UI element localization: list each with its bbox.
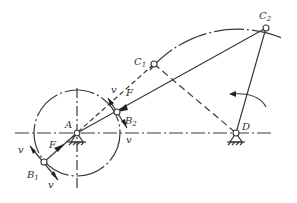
label-b1: B1: [26, 169, 39, 182]
label-vel-top: v: [111, 84, 117, 95]
label-vel-right: v: [126, 134, 132, 145]
coupler-link-solid: [77, 28, 266, 133]
rotation-arrowhead: [229, 91, 236, 97]
label-c1: C1: [134, 56, 146, 69]
joint-d: [233, 130, 239, 136]
joint-c2: [263, 25, 269, 31]
label-d: D: [241, 121, 250, 132]
label-c2: C2: [259, 10, 272, 23]
four-bar-linkage-diagram: A B2 B1 C1 C2 D F F v v v v: [0, 0, 297, 203]
rocker-link: [236, 28, 266, 133]
label-force-bottom: F: [48, 139, 57, 150]
joint-b1: [41, 159, 47, 165]
label-vel-bottom: v: [48, 179, 54, 190]
joint-b2: [114, 109, 120, 115]
label-a: A: [64, 119, 72, 130]
rocker-arc: [150, 29, 282, 70]
label-force-top: F: [125, 87, 134, 98]
label-vel-left: v: [18, 144, 24, 155]
joint-a: [74, 130, 80, 136]
rocker-dashed: [154, 64, 236, 133]
rotation-arc: [232, 94, 266, 107]
joint-c1: [151, 61, 157, 67]
